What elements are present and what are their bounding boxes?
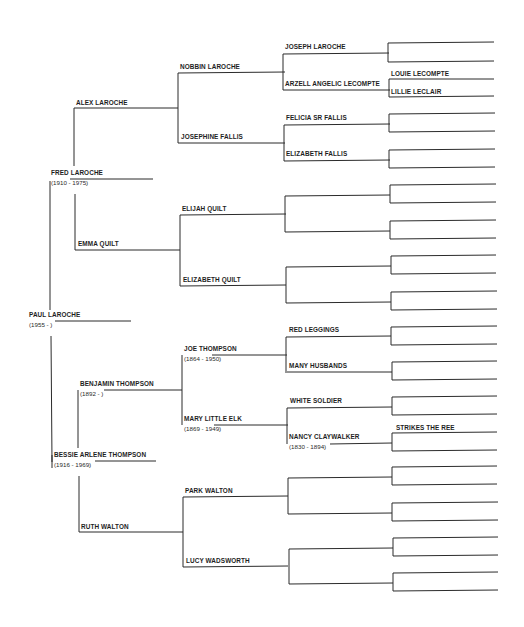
person-dates-paul-laroche: (1955 - ) — [29, 321, 52, 329]
person-dates-benjamin-thompson: (1892 - ) — [80, 390, 103, 398]
person-name-ruth-walton: RUTH WALTON — [81, 523, 129, 531]
person-name-emma-quilt: EMMA QUILT — [78, 240, 119, 248]
person-name-louie-lecompte: LOUIE LECOMPTE — [391, 70, 449, 78]
person-name-joe-thompson: JOE THOMPSON — [184, 345, 237, 353]
person-name-elijah-quilt: ELIJAH QUILT — [182, 205, 226, 213]
person-name-nobbin-laroche: NOBBIN LAROCHE — [180, 63, 240, 71]
person-name-josephine-fallis: JOSEPHINE FALLIS — [181, 133, 243, 141]
person-name-paul-laroche: PAUL LAROCHE — [29, 311, 80, 319]
person-name-elizabeth-quilt: ELIZABETH QUILT — [183, 276, 241, 284]
person-name-benjamin-thompson: BENJAMIN THOMPSON — [80, 380, 154, 388]
person-name-many-husbands: MANY HUSBANDS — [289, 362, 347, 370]
connector-lines — [50, 42, 498, 591]
person-dates-joe-thompson: (1864 - 1950) — [184, 355, 221, 363]
person-dates-fred-laroche: (1910 - 1975) — [51, 179, 88, 187]
person-name-fred-laroche: FRED LAROCHE — [51, 169, 103, 177]
person-name-white-soldier: WHITE SOLDIER — [290, 397, 342, 405]
person-name-elizabeth-fallis: ELIZABETH FALLIS — [286, 150, 347, 158]
person-name-strikes-the-ree: STRIKES THE REE — [396, 424, 455, 432]
person-name-park-walton: PARK WALTON — [185, 487, 233, 495]
person-name-felicia-sr-fallis: FELICIA SR FALLIS — [286, 114, 347, 122]
person-dates-mary-little-elk: (1869 - 1949) — [184, 425, 221, 433]
person-dates-bessie-arlene-thompson: (1916 - 1969) — [54, 461, 91, 469]
person-name-lillie-leclair: LILLIE LECLAIR — [391, 88, 441, 96]
person-name-nancy-claywalker: NANCY CLAYWALKER — [289, 433, 359, 441]
person-name-red-leggings: RED LEGGINGS — [289, 326, 339, 334]
person-name-arzell-angelic-lecompte: ARZELL ANGELIC LECOMPTE — [285, 80, 380, 88]
person-name-alex-laroche: ALEX LAROCHE — [76, 99, 128, 107]
person-name-bessie-arlene-thompson: BESSIE ARLENE THOMPSON — [54, 451, 146, 459]
person-dates-nancy-claywalker: (1830 - 1894) — [289, 443, 326, 451]
person-name-joseph-laroche: JOSEPH LAROCHE — [285, 43, 346, 51]
person-name-lucy-wadsworth: LUCY WADSWORTH — [186, 557, 250, 565]
person-name-mary-little-elk: MARY LITTLE ELK — [184, 415, 242, 423]
